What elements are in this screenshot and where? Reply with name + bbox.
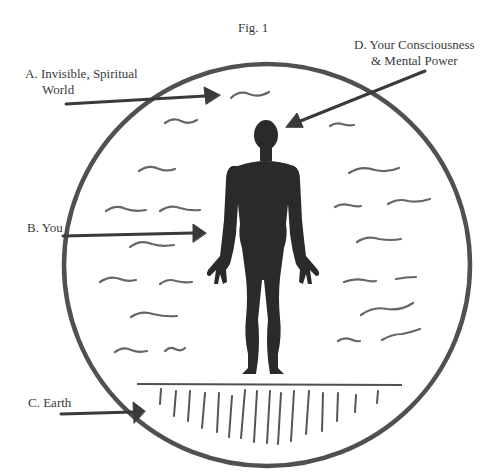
human-silhouette (207, 120, 319, 374)
earth-hatching (160, 389, 378, 444)
arrow-c (61, 402, 145, 423)
spiritual-world-diagram (0, 0, 504, 475)
arrow-a (66, 87, 220, 104)
ground-line (137, 384, 402, 385)
arrow-b (63, 224, 206, 242)
earth-region (137, 384, 402, 444)
